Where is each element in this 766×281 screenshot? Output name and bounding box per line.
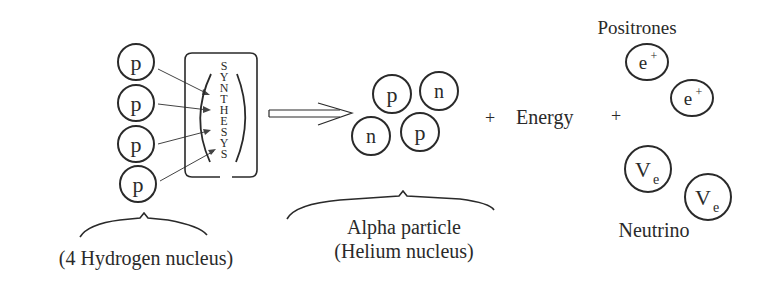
neutron-circle: n	[352, 117, 390, 155]
positron-label: e	[684, 88, 692, 109]
neutrino-label: V	[695, 185, 711, 210]
reaction-arrow-icon	[269, 103, 352, 125]
neutrino-subscript: e	[653, 172, 659, 187]
proton-label: p	[131, 91, 142, 116]
neutron-label: n	[366, 125, 376, 147]
hydrogen-nuclei-group: p p p p	[118, 44, 156, 202]
reactant-brace	[80, 213, 207, 237]
alpha-brace	[287, 191, 494, 219]
proton-label: p	[131, 50, 142, 75]
plus-sign: +	[485, 108, 495, 128]
neutrino-subscript: e	[713, 200, 719, 215]
neutrino-label: V	[635, 157, 651, 182]
proton-circle: p	[118, 126, 154, 162]
positron-charge: +	[651, 49, 658, 63]
energy-label: Energy	[516, 106, 573, 129]
reactant-caption: (4 Hydrogen nucleus)	[59, 247, 233, 270]
neutrino-circle: V e	[625, 146, 671, 192]
neutrino-circle: V e	[685, 174, 731, 220]
svg-text:S: S	[221, 147, 228, 161]
positron-label: e	[639, 52, 647, 73]
neutron-circle: n	[420, 72, 458, 110]
proton-label: p	[415, 120, 426, 145]
positron-charge: +	[696, 85, 703, 99]
diagram-canvas: p p p p	[0, 0, 766, 281]
proton-label: p	[387, 82, 398, 107]
proton-label: p	[133, 172, 144, 197]
neutrino-title: Neutrino	[618, 219, 689, 241]
synthesis-label: S Y N T H E S Y S	[220, 59, 229, 161]
proton-arrows	[158, 69, 216, 181]
alpha-caption-line1: Alpha particle	[347, 216, 461, 239]
proton-label: p	[131, 132, 142, 157]
proton-circle: p	[118, 44, 154, 80]
positrons-title: Positrones	[597, 17, 676, 38]
plus-sign: +	[611, 106, 621, 126]
proton-circle: p	[401, 113, 439, 151]
alpha-particle-group: p n n p	[352, 72, 458, 155]
proton-circle: p	[118, 85, 154, 121]
fusion-diagram: p p p p	[0, 0, 766, 281]
positron-circle: e +	[626, 44, 668, 80]
synthesis-box: S Y N T H E S Y S	[185, 53, 257, 177]
neutron-label: n	[434, 80, 444, 102]
proton-circle: p	[120, 166, 156, 202]
positron-circle: e +	[671, 80, 713, 116]
alpha-caption-line2: (Helium nucleus)	[334, 240, 473, 263]
proton-circle: p	[373, 75, 411, 113]
